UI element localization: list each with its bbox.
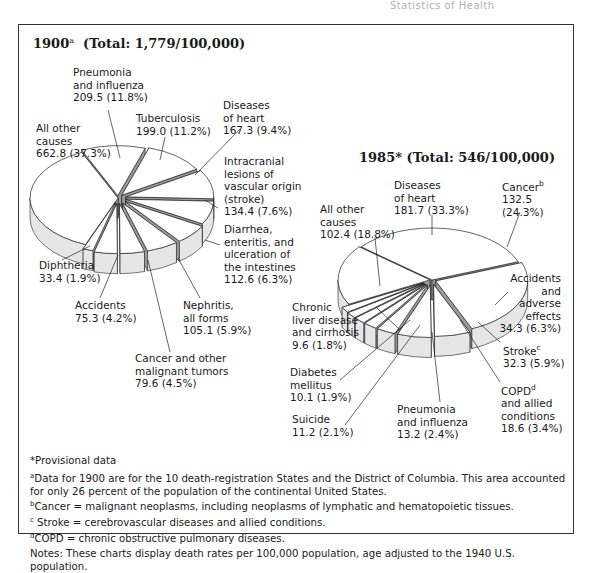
label-1900-accidents: Accidents 75.3 (4.2%) (75, 299, 137, 324)
label-1900-tuberculosis: Tuberculosis 199.0 (11.2%) (136, 112, 211, 137)
label-1985-other: All other causes 102.4 (18.8%) (320, 203, 395, 241)
label-1900-stroke: Intracranial lesions of vascular origin … (224, 155, 301, 218)
note-general: Notes: These charts display death rates … (30, 548, 575, 573)
label-1985-pneumonia: Pneumonia and influenza 13.2 (2.4%) (397, 403, 468, 441)
chart-title-1900: 1900a (Total: 1,779/100,000) (33, 36, 245, 51)
label-1985-accidents: Accidents and adverse effects 34.3 (6.3%… (499, 272, 561, 335)
note-a: aData for 1900 are for the 10 death-regi… (30, 470, 575, 499)
note-b: bCancer = malignant neoplasms, including… (30, 498, 575, 514)
label-1985-cancer: Cancerb132.5 (24.3%) (502, 178, 544, 218)
label-1900-pneumonia: Pneumonia and influenza 209.5 (11.8%) (73, 66, 148, 104)
label-1985-stroke: Strokec32.3 (5.9%) (503, 342, 565, 370)
label-1985-copd: COPDdand allied conditions 18.6 (3.4%) (501, 382, 563, 435)
label-1900-heart: Diseases of heart 167.3 (9.4%) (223, 99, 291, 137)
note-c: c Stroke = cerebrovascular diseases and … (30, 514, 575, 530)
label-1900-nephritis: Nephritis, all forms 105.1 (5.9%) (183, 299, 251, 337)
label-1900-diarrhea: Diarrhea, enteritis, and ulceration of t… (224, 223, 296, 286)
label-1900-cancer: Cancer and other malignant tumors 79.6 (… (135, 352, 229, 390)
label-1985-liver: Chronic liver disease and cirrhosis 9.6 … (292, 301, 359, 351)
label-1985-diabetes: Diabetes mellitus 10.1 (1.9%) (290, 366, 352, 404)
footnotes: *Provisional data aData for 1900 are for… (30, 455, 575, 573)
label-1985-heart: Diseases of heart 181.7 (33.3%) (394, 179, 469, 217)
label-1900-other: All other causes 662.8 (37.3%) (36, 122, 111, 160)
chart-title-1985: 1985* (Total: 546/100,000) (359, 150, 555, 165)
label-1900-diphtheria: Diphtheria 33.4 (1.9%) (39, 259, 101, 284)
label-1985-suicide: Suicide 11.2 (2.1%) (292, 413, 354, 438)
note-provisional: *Provisional data (30, 455, 575, 468)
note-d: dCOPD = chronic obstructive pulmonary di… (30, 530, 575, 546)
